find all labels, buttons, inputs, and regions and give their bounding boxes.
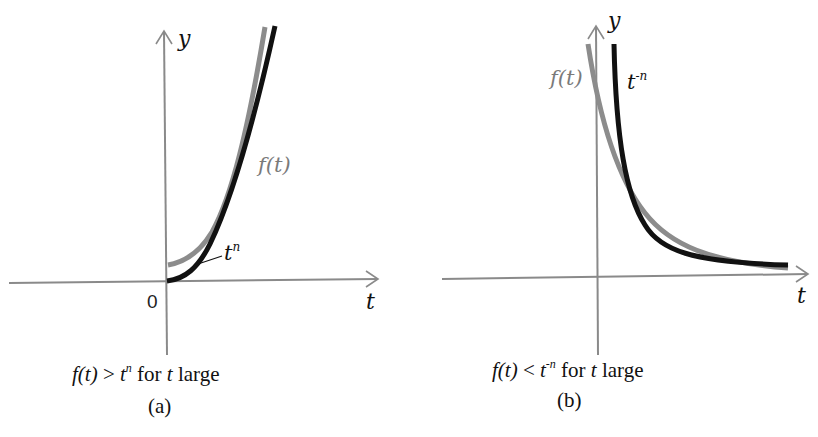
panel-b-x-axis bbox=[442, 274, 808, 279]
panel-a-sublabel: (a) bbox=[148, 396, 171, 417]
panel-a-f-label: f(t) bbox=[258, 155, 291, 176]
panel-b-x-axis-label: t bbox=[797, 285, 806, 307]
panel-b-caption-large: large bbox=[602, 358, 644, 382]
panel-a-y-axis bbox=[164, 31, 167, 355]
panel-b-tn-exp: -n bbox=[635, 69, 647, 83]
panel-b-y-axis bbox=[596, 26, 598, 355]
figure-growth-comparison: y t 0 f(t) tn f(t) > tn for t large (a) … bbox=[0, 0, 818, 437]
panel-b-caption-rel: < bbox=[523, 358, 535, 382]
panel-a-origin-label: 0 bbox=[147, 292, 158, 311]
panel-b-caption-exp: -n bbox=[546, 357, 556, 371]
panel-b-f-curve bbox=[588, 44, 788, 268]
panel-a-x-axis bbox=[9, 279, 378, 283]
panel-b-f-label: f(t) bbox=[550, 68, 583, 89]
panel-b-caption-tvar: t bbox=[591, 358, 597, 382]
panel-a-tn-exp: n bbox=[232, 240, 240, 254]
panel-b-caption-for: for bbox=[561, 358, 586, 382]
panel-a-caption: f(t) > tn for t large bbox=[72, 364, 220, 385]
panel-a-tn-label: tn bbox=[224, 243, 240, 264]
panel-b-caption-t: t bbox=[540, 358, 546, 382]
panel-a-caption-t: t bbox=[120, 362, 126, 386]
panel-b-tn-label: t-n bbox=[627, 72, 647, 93]
panel-a-axes bbox=[9, 31, 378, 355]
panel-b-caption: f(t) < t-n for t large bbox=[492, 360, 644, 381]
panel-a-y-axis-label: y bbox=[178, 28, 190, 50]
panel-b-y-axis-label: y bbox=[608, 10, 620, 32]
panel-a-caption-rel: > bbox=[103, 362, 115, 386]
panel-a-caption-exp: n bbox=[126, 361, 132, 375]
panel-a-x-axis-label: t bbox=[366, 291, 375, 313]
panel-b-axes bbox=[442, 26, 808, 355]
panel-a-caption-large: large bbox=[178, 362, 220, 386]
panel-b-sublabel: (b) bbox=[557, 390, 582, 411]
panel-b-caption-f: f(t) bbox=[492, 358, 518, 382]
panel-a-caption-for: for bbox=[137, 362, 162, 386]
panel-a-caption-f: f(t) bbox=[72, 362, 98, 386]
panel-a-caption-tvar: t bbox=[167, 362, 173, 386]
